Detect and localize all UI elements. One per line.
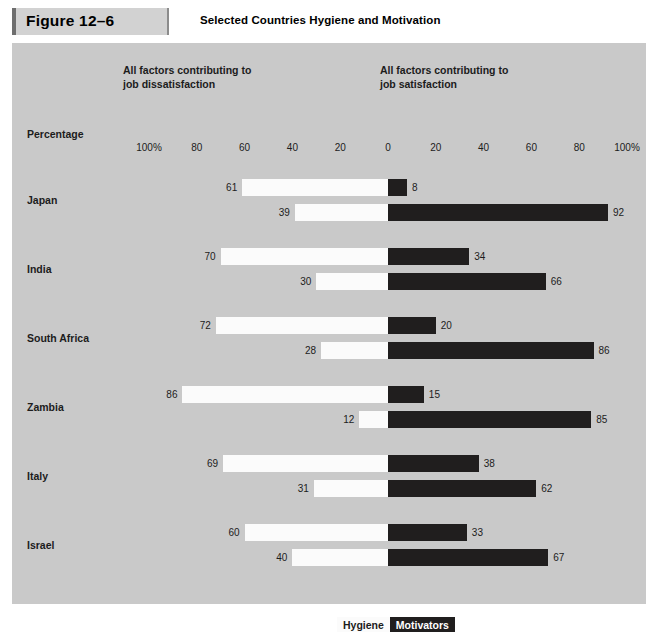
bar-value-hygiene: 28	[305, 342, 321, 359]
bar-value-motivators: 15	[424, 386, 440, 403]
bar-hygiene	[321, 342, 388, 359]
figure-number-box: Figure 12–6	[12, 8, 167, 35]
bar-motivators	[388, 342, 594, 359]
axis-tick-0: 0	[385, 142, 391, 153]
bar-motivators	[388, 549, 548, 566]
legend-item-motivators: Motivators	[390, 617, 455, 632]
axis-title-percentage: Percentage	[27, 128, 84, 140]
axis-tick-pos60: 60	[526, 142, 537, 153]
bar-motivators	[388, 179, 407, 196]
country-label-south-africa: South Africa	[27, 332, 89, 344]
bar-value-hygiene: 12	[343, 411, 359, 428]
bar-value-motivators: 85	[591, 411, 607, 428]
bar-value-motivators: 38	[479, 455, 495, 472]
bar-value-hygiene: 60	[228, 524, 244, 541]
bar-value-hygiene: 30	[300, 273, 316, 290]
bar-motivators	[388, 386, 424, 403]
bar-hygiene	[245, 524, 388, 541]
column-header-dissatisfaction: All factors contributing to job dissatis…	[123, 63, 251, 91]
bar-value-motivators: 66	[546, 273, 562, 290]
bar-motivators	[388, 273, 546, 290]
bar-value-motivators: 62	[536, 480, 552, 497]
bar-value-hygiene: 61	[226, 179, 242, 196]
country-label-japan: Japan	[27, 194, 57, 206]
axis-tick-pos100: 100%	[614, 142, 640, 153]
figure-header: Figure 12–6 Selected Countries Hygiene a…	[12, 8, 646, 38]
axis-tick-neg100: 100%	[136, 142, 162, 153]
bar-hygiene	[316, 273, 388, 290]
bar-value-hygiene: 40	[276, 549, 292, 566]
bar-motivators	[388, 480, 536, 497]
bar-hygiene	[216, 317, 388, 334]
axis-tick-pos40: 40	[478, 142, 489, 153]
axis-tick-pos20: 20	[430, 142, 441, 153]
bar-hygiene	[182, 386, 388, 403]
bar-hygiene	[223, 455, 388, 472]
chart-legend: Hygiene Motivators	[337, 617, 455, 632]
bar-hygiene	[359, 411, 388, 428]
bar-value-motivators: 33	[467, 524, 483, 541]
header-divider	[167, 8, 169, 35]
bar-hygiene	[295, 204, 388, 221]
country-label-zambia: Zambia	[27, 401, 64, 413]
bar-motivators	[388, 411, 591, 428]
bar-value-motivators: 92	[608, 204, 624, 221]
bar-value-hygiene: 86	[166, 386, 182, 403]
country-label-italy: Italy	[27, 470, 48, 482]
bar-value-motivators: 34	[469, 248, 485, 265]
bar-value-motivators: 20	[436, 317, 452, 334]
axis-tick-neg60: 60	[239, 142, 250, 153]
bar-motivators	[388, 455, 479, 472]
axis-tick-pos80: 80	[574, 142, 585, 153]
bar-hygiene	[314, 480, 388, 497]
bar-motivators	[388, 204, 608, 221]
bar-hygiene	[221, 248, 388, 265]
bar-value-hygiene: 72	[200, 317, 216, 334]
bar-value-motivators: 8	[407, 179, 418, 196]
bar-hygiene	[292, 549, 388, 566]
bar-hygiene	[242, 179, 388, 196]
bar-value-motivators: 86	[594, 342, 610, 359]
legend-item-hygiene: Hygiene	[337, 617, 390, 632]
page-title: Selected Countries Hygiene and Motivatio…	[200, 14, 441, 26]
country-label-india: India	[27, 263, 52, 275]
bar-motivators	[388, 317, 436, 334]
bar-value-hygiene: 70	[205, 248, 221, 265]
bar-value-hygiene: 69	[207, 455, 223, 472]
figure-number-label: Figure 12–6	[26, 12, 114, 30]
axis-tick-neg20: 20	[335, 142, 346, 153]
bar-value-hygiene: 39	[279, 204, 295, 221]
axis-tick-neg40: 40	[287, 142, 298, 153]
bar-value-hygiene: 31	[298, 480, 314, 497]
bar-value-motivators: 67	[548, 549, 564, 566]
country-label-israel: Israel	[27, 539, 54, 551]
axis-tick-neg80: 80	[191, 142, 202, 153]
bar-motivators	[388, 248, 469, 265]
column-header-satisfaction: All factors contributing to job satisfac…	[380, 63, 508, 91]
bar-motivators	[388, 524, 467, 541]
chart-canvas: All factors contributing to job dissatis…	[12, 43, 646, 604]
